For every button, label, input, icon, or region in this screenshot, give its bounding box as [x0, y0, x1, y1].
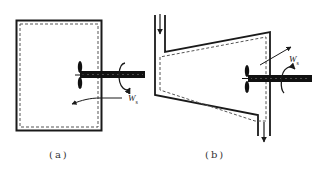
- paddle-icon: [242, 65, 251, 93]
- work-label-b: Ws: [289, 54, 299, 66]
- work-arrow-icon: [260, 47, 291, 65]
- duct-wall: [155, 15, 258, 136]
- panel-b: [155, 14, 312, 142]
- figure: Ws Ws (a) (b): [0, 0, 326, 171]
- caption-a: (a): [49, 149, 69, 160]
- work-arrow-icon: [72, 98, 122, 104]
- paddle-icon: [75, 61, 84, 89]
- work-label-a: Ws: [128, 93, 138, 105]
- caption-b: (b): [205, 149, 225, 160]
- panel-a: [17, 21, 146, 131]
